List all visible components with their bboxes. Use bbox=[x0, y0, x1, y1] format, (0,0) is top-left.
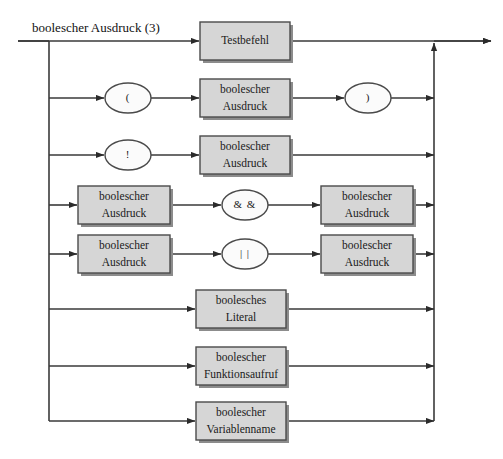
nonterminal-box[interactable]: boolescherAusdruck bbox=[78, 235, 173, 276]
terminal-node[interactable]: ! bbox=[105, 140, 151, 170]
nonterminal-label-line1: boolesches bbox=[216, 294, 267, 306]
railroad-diagram-canvas: boolescher Ausdruck (3) Testbefehl(boole… bbox=[0, 0, 503, 459]
terminal-node[interactable]: ) bbox=[345, 83, 391, 113]
nonterminal-box[interactable]: boolescherAusdruck bbox=[78, 186, 173, 227]
nonterminal-box[interactable]: boolescherAusdruck bbox=[321, 235, 416, 276]
nonterminal-label-line2: Ausdruck bbox=[102, 207, 147, 219]
nonterminal-label-line2: Funktionsaufruf bbox=[204, 368, 278, 380]
nonterminal-label-line2: Ausdruck bbox=[345, 256, 390, 268]
terminal-label: ! bbox=[126, 148, 131, 160]
nonterminal-box[interactable]: boolescherAusdruck bbox=[200, 79, 293, 120]
nonterminal-box[interactable]: booleschesLiteral bbox=[196, 290, 289, 331]
nonterminal-label-line1: boolescher bbox=[216, 406, 266, 418]
nonterminal-label-line1: boolescher bbox=[99, 190, 149, 202]
terminal-label: ) bbox=[366, 91, 371, 104]
diagram-title: boolescher Ausdruck (3) bbox=[32, 20, 160, 35]
nonterminal-label-line2: Ausdruck bbox=[345, 207, 390, 219]
terminal-label: & & bbox=[234, 198, 257, 210]
nonterminal-box[interactable]: boolescherAusdruck bbox=[321, 186, 416, 227]
terminal-label: ( bbox=[126, 91, 131, 104]
nonterminal-box[interactable]: boolescherFunktionsaufruf bbox=[196, 347, 289, 388]
nonterminal-label-line2: Variablenname bbox=[207, 423, 276, 435]
nonterminal-label-line1: boolescher bbox=[220, 140, 270, 152]
rail-nodes-group: Testbefehl(boolescherAusdruck)!boolesche… bbox=[78, 22, 416, 443]
nonterminal-label-line1: boolescher bbox=[216, 351, 266, 363]
nonterminal-box[interactable]: boolescherAusdruck bbox=[200, 136, 293, 177]
nonterminal-label-line1: boolescher bbox=[342, 239, 392, 251]
terminal-node[interactable]: | | bbox=[222, 239, 268, 269]
railroad-diagram-svg: boolescher Ausdruck (3) Testbefehl(boole… bbox=[0, 0, 503, 459]
terminal-node[interactable]: & & bbox=[222, 190, 268, 220]
nonterminal-label-line2: Ausdruck bbox=[102, 256, 147, 268]
nonterminal-label: Testbefehl bbox=[221, 34, 269, 46]
terminal-node[interactable]: ( bbox=[105, 83, 151, 113]
nonterminal-label-line1: boolescher bbox=[342, 190, 392, 202]
nonterminal-label-line1: boolescher bbox=[220, 83, 270, 95]
nonterminal-label-line2: Ausdruck bbox=[223, 100, 268, 112]
nonterminal-label-line1: boolescher bbox=[99, 239, 149, 251]
nonterminal-label-line2: Ausdruck bbox=[223, 157, 268, 169]
nonterminal-box[interactable]: boolescherVariablenname bbox=[196, 402, 289, 443]
terminal-label: | | bbox=[240, 247, 250, 259]
nonterminal-label-line2: Literal bbox=[226, 311, 257, 323]
nonterminal-box[interactable]: Testbefehl bbox=[200, 22, 293, 63]
